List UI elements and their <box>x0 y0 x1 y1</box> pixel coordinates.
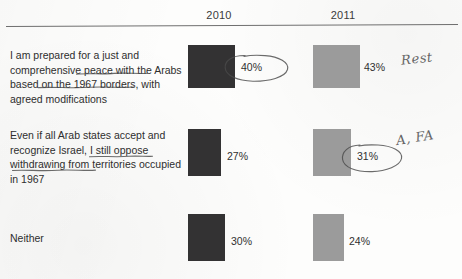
bar-value-2011: 43% <box>364 61 385 73</box>
bar-value-2010: 40% <box>241 61 262 73</box>
row-label: Neither <box>10 231 182 246</box>
bar-value-2010: 27% <box>227 150 248 162</box>
column-header-2011: 2011 <box>312 9 374 21</box>
bar-2010 <box>188 45 235 88</box>
bar-2011 <box>313 214 344 261</box>
bar-2010 <box>188 214 225 261</box>
bar-value-2011: 24% <box>349 235 370 247</box>
column-header-2010: 2010 <box>188 9 250 21</box>
row-label: I am prepared for a just and comprehensi… <box>10 48 182 106</box>
bar-2010 <box>188 129 221 176</box>
bar-value-2010: 30% <box>231 235 252 247</box>
row-label: Even if all Arab states accept and recog… <box>10 128 182 186</box>
bar-2011 <box>313 45 360 88</box>
bar-value-2011: 31% <box>357 150 378 162</box>
bar-2011 <box>313 129 351 176</box>
